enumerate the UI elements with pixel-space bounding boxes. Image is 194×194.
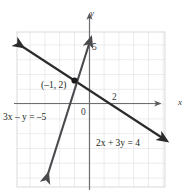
coordinate-graph-figure: y x 5 2 0 (–1, 2) 3x – y = –5 2x + 3y = … — [0, 0, 194, 194]
y-axis-label: y — [90, 9, 94, 18]
equation-label-3x-minus-y: 3x – y = –5 — [3, 113, 46, 123]
intersection-point-marker — [71, 77, 77, 83]
y-tick-label-5: 5 — [92, 43, 97, 53]
x-axis-label: x — [178, 98, 182, 107]
equation-label-2x-plus-3y: 2x + 3y = 4 — [96, 139, 140, 149]
origin-label: 0 — [81, 108, 86, 118]
grid-lines — [17, 32, 165, 187]
x-tick-label-2: 2 — [112, 93, 117, 103]
graph-canvas — [0, 0, 194, 194]
intersection-point-label: (–1, 2) — [41, 81, 66, 91]
